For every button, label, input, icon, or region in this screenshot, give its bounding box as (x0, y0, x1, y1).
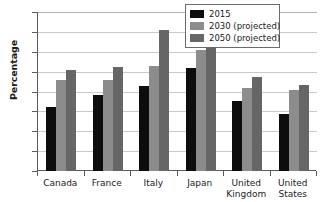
legend-item: 2030 (projected) (190, 20, 275, 32)
bar (149, 66, 159, 171)
x-axis-tick-mark (84, 171, 85, 176)
bar-group (139, 12, 169, 171)
bar (299, 85, 309, 171)
bar (289, 90, 299, 171)
legend-swatch (190, 10, 204, 18)
bar (56, 80, 66, 171)
bar (103, 80, 113, 171)
legend-label: 2015 (209, 10, 231, 19)
legend-label: 2030 (projected) (209, 22, 280, 31)
legend-swatch (190, 34, 204, 42)
x-axis-tick-mark (223, 171, 224, 176)
x-axis-tick-mark (130, 171, 131, 176)
bar (46, 107, 56, 171)
bar (66, 70, 76, 171)
legend-label: 2050 (projected) (209, 34, 280, 43)
bar (242, 88, 252, 171)
x-axis-label: UnitedStates (258, 178, 324, 199)
bar (232, 101, 242, 171)
bar (252, 77, 262, 171)
bar (206, 26, 216, 171)
x-axis-tick-mark (177, 171, 178, 176)
chart-legend: 20152030 (projected)2050 (projected) (185, 4, 280, 48)
bar-group (46, 12, 76, 171)
y-axis-title: Percentage (7, 27, 21, 113)
bar (159, 30, 169, 172)
legend-item: 2050 (projected) (190, 32, 275, 44)
bar-group (279, 12, 309, 171)
bar (93, 95, 103, 171)
bar (196, 50, 206, 171)
x-axis-tick-mark (316, 171, 317, 176)
bar-group (93, 12, 123, 171)
x-axis-tick-mark (37, 171, 38, 176)
bar (186, 68, 196, 171)
legend-swatch (190, 22, 204, 30)
x-axis-tick-mark (270, 171, 271, 176)
x-axis-label-line: United (258, 178, 324, 189)
bar (279, 114, 289, 171)
x-axis-label-line: States (258, 189, 324, 200)
bar-chart: Percentage 0510152025303540 CanadaFrance… (0, 0, 324, 202)
bar (113, 67, 123, 171)
bar (139, 86, 149, 171)
legend-item: 2015 (190, 8, 275, 20)
